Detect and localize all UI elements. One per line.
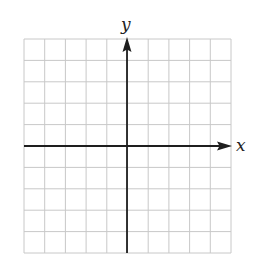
x-axis-label: x — [236, 135, 246, 155]
coordinate-plane: y x — [0, 0, 263, 258]
y-axis — [123, 37, 132, 253]
y-axis-label: y — [120, 14, 131, 34]
